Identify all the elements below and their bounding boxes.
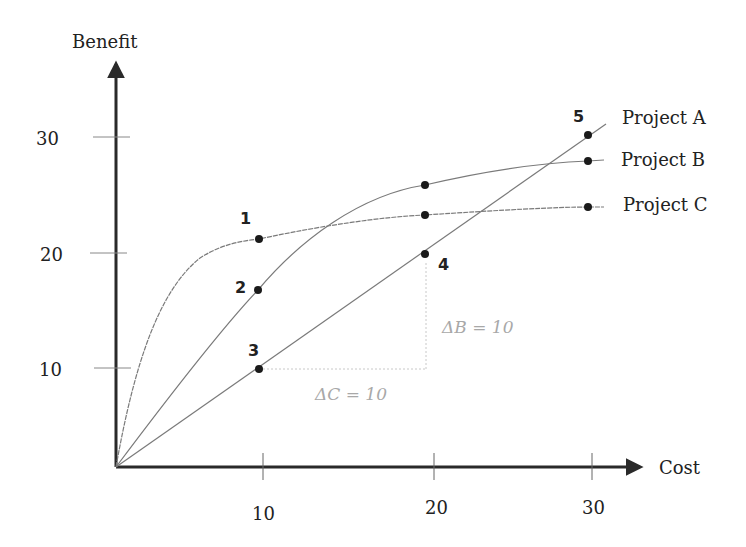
project-c-curve: [116, 207, 604, 467]
point-2-dot: [254, 286, 262, 294]
point-1-dot: [255, 235, 263, 243]
point-4-dot: [421, 250, 429, 258]
point-5-label: 5: [573, 107, 584, 126]
delta-b-annotation: ΔB = 10: [441, 317, 514, 337]
project-b-curve: [116, 160, 604, 467]
project-b-30-dot: [584, 157, 592, 165]
project-b-20-dot: [421, 181, 429, 189]
legend-project-c: Project C: [623, 194, 708, 215]
project-c-20-dot: [421, 211, 429, 219]
point-1-label: 1: [240, 209, 251, 228]
point-2-label: 2: [235, 278, 246, 297]
point-3-dot: [255, 365, 263, 373]
y-tick-label-10: 10: [39, 359, 62, 380]
x-axis-label: Cost: [659, 457, 701, 478]
y-axis-label: Benefit: [72, 31, 138, 52]
legend-project-b: Project B: [621, 149, 705, 170]
x-tick-label-10: 10: [252, 503, 275, 524]
point-3-label: 3: [248, 341, 259, 360]
project-c-30-dot: [584, 203, 592, 211]
y-tick-label-30: 30: [36, 128, 59, 149]
benefit-cost-chart: Benefit Cost 30 20 10 10 20 30 Project A…: [0, 0, 746, 547]
delta-c-annotation: ΔC = 10: [314, 384, 387, 404]
legend-project-a: Project A: [622, 107, 707, 128]
point-5-dot: [584, 131, 592, 139]
point-4-label: 4: [438, 255, 449, 274]
x-tick-label-20: 20: [425, 497, 448, 518]
x-tick-label-30: 30: [582, 497, 605, 518]
project-a-line: [116, 124, 606, 467]
y-tick-label-20: 20: [40, 244, 63, 265]
